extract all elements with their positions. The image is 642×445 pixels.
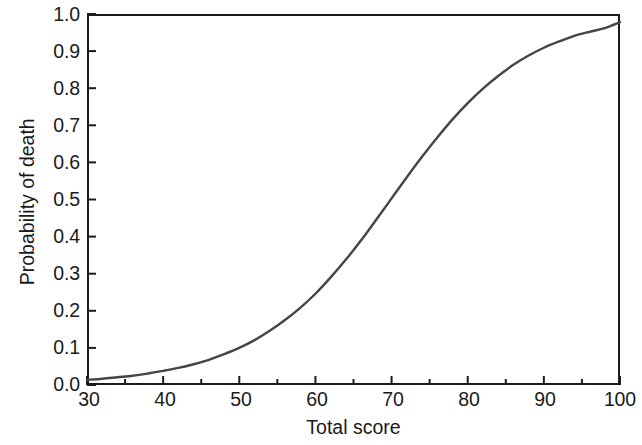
x-tick-label: 80 xyxy=(458,390,480,410)
y-tick-label: 0.9 xyxy=(34,42,80,62)
x-axis-title: Total score xyxy=(87,418,620,438)
y-tick-label: 0.1 xyxy=(34,338,80,358)
x-tick-label: 60 xyxy=(306,390,328,410)
y-tick-label: 0.4 xyxy=(34,227,80,247)
logistic-probability-chart: 1.0 0.9 0.8 0.7 0.6 0.5 0.4 0.3 0.2 0.1 … xyxy=(0,0,642,445)
y-tick-label: 0.8 xyxy=(34,79,80,99)
y-tick-label: 0.7 xyxy=(34,116,80,136)
x-tick-label: 40 xyxy=(154,390,176,410)
y-tick-label: 0.6 xyxy=(34,153,80,173)
plot-area xyxy=(87,14,620,385)
x-tick-label: 70 xyxy=(382,390,404,410)
y-axis-title: Probability of death xyxy=(18,77,38,327)
y-tick-label: 0.2 xyxy=(34,301,80,321)
y-tick-label: 1.0 xyxy=(34,5,80,25)
x-tick-label: 50 xyxy=(230,390,252,410)
x-tick-label: 100 xyxy=(604,390,636,410)
x-tick-label: 30 xyxy=(78,390,100,410)
y-tick-label: 0.5 xyxy=(34,190,80,210)
x-tick-label: 90 xyxy=(534,390,556,410)
y-tick-label: 0.3 xyxy=(34,264,80,284)
